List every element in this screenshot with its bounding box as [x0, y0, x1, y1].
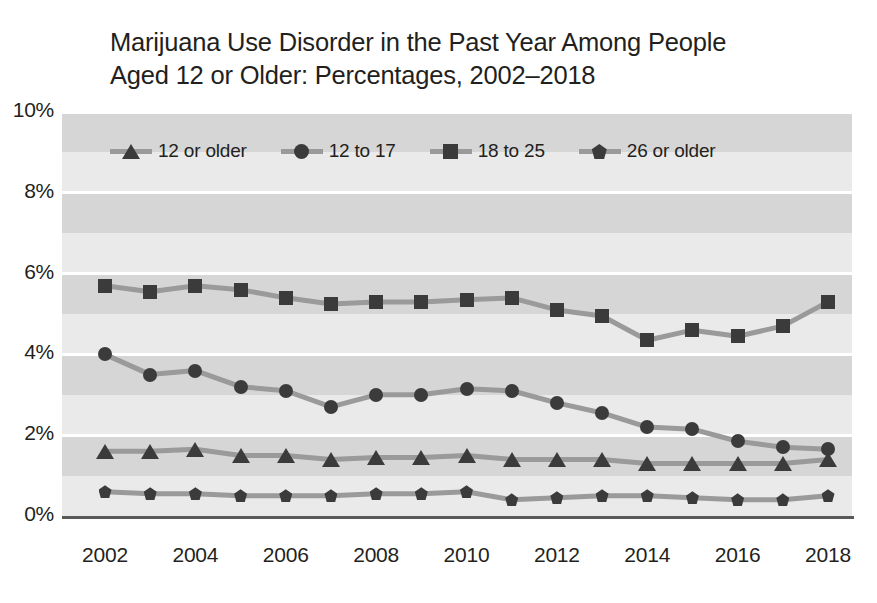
x-axis-tick-label: 2010 [444, 543, 490, 567]
x-axis-tick-label: 2006 [263, 543, 309, 567]
data-point-marker [143, 368, 157, 382]
legend-item[interactable]: 12 or older [110, 140, 247, 162]
data-point-marker [505, 291, 519, 305]
data-point-marker [322, 452, 340, 467]
data-point-marker [550, 396, 564, 410]
data-point-marker [460, 293, 474, 307]
data-point-marker [96, 444, 114, 459]
x-axis-tick-label: 2008 [353, 543, 399, 567]
series-line [105, 354, 828, 449]
legend-marker-triangle-icon [110, 143, 152, 159]
data-point-marker [683, 456, 701, 471]
data-point-marker [731, 434, 745, 448]
legend-item[interactable]: 12 to 17 [281, 140, 396, 162]
data-point-marker [324, 297, 338, 311]
data-point-marker [821, 295, 835, 309]
data-point-marker [324, 400, 338, 414]
chart-title-line-1: Marijuana Use Disorder in the Past Year … [110, 26, 850, 59]
y-axis-tick-label: 6% [0, 260, 62, 284]
y-axis-tick-label: 10% [0, 98, 62, 122]
legend-label: 26 or older [627, 140, 716, 162]
data-point-marker [232, 448, 250, 463]
data-point-marker [186, 442, 204, 457]
data-point-marker [277, 448, 295, 463]
chart-legend: 12 or older12 to 1718 to 2526 or older [62, 131, 852, 171]
y-axis-tick-label: 0% [0, 502, 62, 526]
legend-item[interactable]: 26 or older [579, 140, 716, 162]
page-title: Marijuana Use Disorder in the Past Year … [110, 26, 850, 91]
chart-figure: 0%2%4%6%8%10% 20022004200620082010201220… [0, 0, 877, 603]
data-point-marker [188, 279, 202, 293]
data-point-marker [729, 456, 747, 471]
legend-label: 18 to 25 [478, 140, 545, 162]
legend-label: 12 or older [158, 140, 247, 162]
data-point-marker [458, 448, 476, 463]
data-point-marker [595, 309, 609, 323]
data-point-marker [776, 319, 790, 333]
data-point-marker [595, 406, 609, 420]
x-axis-tick-label: 2002 [82, 543, 128, 567]
data-point-marker [141, 444, 159, 459]
x-axis-line [62, 516, 854, 519]
x-axis-tick-label: 2018 [805, 543, 851, 567]
y-axis-tick-label: 2% [0, 421, 62, 445]
data-point-marker [188, 364, 202, 378]
data-point-marker [369, 295, 383, 309]
x-axis-tick-label: 2012 [534, 543, 580, 567]
chart-title-line-2: Aged 12 or Older: Percentages, 2002–2018 [110, 59, 850, 92]
data-point-marker [279, 384, 293, 398]
data-point-marker [414, 295, 428, 309]
plot-area [62, 112, 852, 516]
y-axis-tick-label: 8% [0, 179, 62, 203]
data-point-marker [685, 323, 699, 337]
legend-marker-diamond-icon [579, 143, 621, 159]
x-axis-tick-label: 2014 [624, 543, 670, 567]
data-point-marker [638, 456, 656, 471]
data-point-marker [234, 380, 248, 394]
legend-label: 12 to 17 [329, 140, 396, 162]
legend-item[interactable]: 18 to 25 [430, 140, 545, 162]
data-point-marker [774, 456, 792, 471]
data-point-marker [550, 303, 564, 317]
y-axis-tick-label: 4% [0, 340, 62, 364]
data-point-marker [234, 283, 248, 297]
data-point-marker [640, 333, 654, 347]
x-axis-tick-label: 2004 [172, 543, 218, 567]
legend-marker-square-icon [430, 143, 472, 159]
data-point-marker [279, 291, 293, 305]
data-point-marker [412, 450, 430, 465]
data-point-marker [548, 452, 566, 467]
x-axis-tick-label: 2016 [715, 543, 761, 567]
data-point-marker [98, 279, 112, 293]
data-point-marker [369, 388, 383, 402]
data-point-marker [593, 452, 611, 467]
legend-marker-circle-icon [281, 143, 323, 159]
data-point-marker [460, 382, 474, 396]
data-point-marker [143, 285, 157, 299]
data-point-marker [367, 450, 385, 465]
data-point-marker [505, 384, 519, 398]
data-point-marker [731, 329, 745, 343]
data-point-marker [503, 452, 521, 467]
